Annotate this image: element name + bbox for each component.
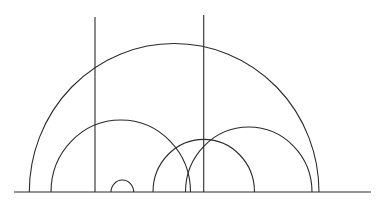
- half-plane-geodesic-diagram: [0, 0, 383, 203]
- diagram-canvas: [0, 0, 383, 203]
- vertical-geodesics: [95, 15, 204, 192]
- arc-right-medium: [186, 127, 313, 192]
- arc-small: [111, 180, 134, 192]
- arc-left-medium: [51, 120, 191, 192]
- arc-large: [29, 44, 319, 193]
- semicircular-geodesics: [29, 44, 319, 193]
